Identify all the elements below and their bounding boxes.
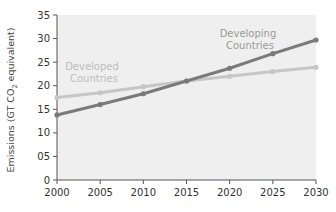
x-tick-label: 2030 <box>303 187 328 198</box>
y-tick-label: 10 <box>37 127 50 138</box>
series-label: Countries <box>70 73 118 84</box>
data-point <box>98 90 103 95</box>
y-axis-label-container: Emissions (GT CO2 equivalent) <box>2 20 22 180</box>
y-tick-label: 05 <box>37 151 50 162</box>
y-tick-label: 30 <box>37 33 50 44</box>
data-point <box>313 65 318 70</box>
y-tick-label: 20 <box>37 80 50 91</box>
data-point <box>141 91 146 96</box>
y-axis-label: Emissions (GT CO2 equivalent) <box>5 28 19 173</box>
series-label: Developed <box>65 61 119 72</box>
x-tick-label: 2010 <box>131 187 156 198</box>
y-tick-label: 0 <box>44 175 50 186</box>
plot-area <box>57 15 316 180</box>
y-tick-label: 25 <box>37 57 50 68</box>
data-point <box>227 66 232 71</box>
chart-svg: 0051015202530352000200520102015202020252… <box>0 0 336 212</box>
x-tick-label: 2020 <box>217 187 242 198</box>
data-point <box>270 69 275 74</box>
y-tick-label: 35 <box>37 10 50 21</box>
data-point <box>184 78 189 83</box>
data-point <box>313 37 318 42</box>
series-label: Countries <box>226 40 274 51</box>
x-tick-label: 2015 <box>174 187 199 198</box>
x-tick-label: 2000 <box>44 187 69 198</box>
data-point <box>54 95 59 100</box>
data-point <box>141 84 146 89</box>
x-tick-label: 2005 <box>87 187 112 198</box>
data-point <box>227 74 232 79</box>
data-point <box>98 102 103 107</box>
data-point <box>270 51 275 56</box>
data-point <box>54 112 59 117</box>
x-tick-label: 2025 <box>260 187 285 198</box>
series-label: Developing <box>220 28 277 39</box>
y-tick-label: 15 <box>37 104 50 115</box>
